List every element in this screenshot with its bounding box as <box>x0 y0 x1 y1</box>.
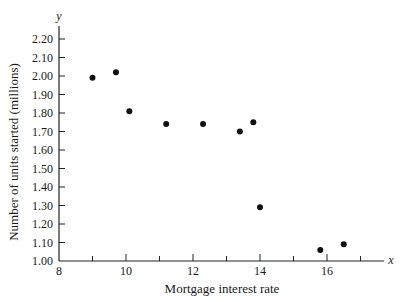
data-point <box>113 69 119 75</box>
y-tick-label: 1.30 <box>32 199 53 213</box>
x-axis-symbol: x <box>387 253 394 267</box>
y-tick-label: 1.40 <box>32 180 53 194</box>
y-tick-label: 2.20 <box>32 32 53 46</box>
chart-canvas: 1.001.101.201.301.401.501.601.701.801.90… <box>0 0 402 302</box>
scatter-chart: 1.001.101.201.301.401.501.601.701.801.90… <box>0 0 402 302</box>
x-tick-label: 14 <box>254 264 266 278</box>
y-tick-label: 2.10 <box>32 51 53 65</box>
y-tick-label: 1.10 <box>32 236 53 250</box>
x-axis-label: Mortgage interest rate <box>165 281 280 296</box>
y-tick-label: 2.00 <box>32 69 53 83</box>
x-tick-label: 8 <box>56 264 62 278</box>
data-point <box>237 129 243 135</box>
x-tick-label: 10 <box>120 264 132 278</box>
y-tick-label: 1.00 <box>32 254 53 268</box>
data-point <box>163 121 169 127</box>
y-axis-label: Number of units started (millions) <box>6 63 21 241</box>
x-tick-label: 12 <box>187 264 199 278</box>
data-point <box>317 247 323 253</box>
x-tick-label: 16 <box>321 264 333 278</box>
data-point <box>126 108 132 114</box>
y-tick-label: 1.60 <box>32 143 53 157</box>
y-axis-ticks: 1.001.101.201.301.401.501.601.701.801.90… <box>32 32 65 268</box>
x-axis-ticks: 810121416 <box>56 254 361 278</box>
y-tick-label: 1.50 <box>32 162 53 176</box>
data-point <box>250 119 256 125</box>
y-tick-label: 1.90 <box>32 88 53 102</box>
y-tick-label: 1.70 <box>32 125 53 139</box>
y-tick-label: 1.80 <box>32 106 53 120</box>
y-tick-label: 1.20 <box>32 217 53 231</box>
data-point <box>200 121 206 127</box>
y-axis-symbol: y <box>55 9 62 23</box>
data-point <box>341 241 347 247</box>
data-points <box>90 69 347 253</box>
data-point <box>257 204 263 210</box>
data-point <box>90 75 96 81</box>
axes <box>59 26 384 261</box>
